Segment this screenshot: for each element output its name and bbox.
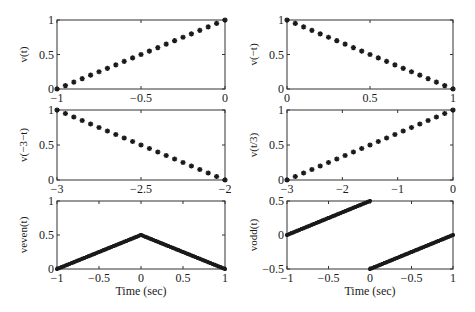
data-point-marker	[409, 69, 414, 74]
y-tick-label: 0	[278, 82, 284, 96]
subplot-v-t: −1−0.5000.51v(t)	[17, 13, 228, 105]
data-point-marker	[96, 125, 101, 130]
data-point-marker	[284, 177, 289, 182]
data-point-marker	[180, 160, 185, 165]
y-tick-label: 0	[48, 82, 54, 96]
y-tick-label: 1	[48, 194, 54, 208]
data-point-marker	[442, 111, 447, 116]
data-point-marker	[80, 118, 85, 123]
x-tick-label: 1	[450, 271, 456, 285]
data-point-marker	[214, 174, 219, 179]
y-axis-label: v(t/3)	[247, 132, 260, 157]
y-tick-label: 0	[48, 262, 54, 276]
x-tick-label: 0.5	[363, 91, 378, 105]
subplot-v-t-over-3: −3−2−1000.51v(t/3)	[247, 103, 456, 196]
data-point-marker	[442, 83, 447, 88]
data-point-marker	[222, 17, 227, 22]
data-point-marker	[130, 55, 135, 60]
data-point-marker	[80, 76, 85, 81]
y-axis-label: v(t)	[17, 46, 30, 62]
data-point-marker	[451, 233, 455, 237]
data-point-marker	[172, 156, 177, 161]
data-point-marker	[138, 52, 143, 57]
data-point-marker	[392, 132, 397, 137]
data-point-marker	[172, 38, 177, 43]
x-tick-label: −0.5	[88, 271, 110, 285]
data-point-marker	[301, 24, 306, 29]
data-point-marker	[351, 149, 356, 154]
x-tick-label: −1	[391, 182, 404, 196]
data-point-marker	[359, 48, 364, 53]
y-tick-label: 0.5	[39, 228, 54, 242]
data-point-marker	[334, 38, 339, 43]
figure: −1−0.5000.51v(t) 00.5100.51v(−t) −3−2.5−…	[0, 0, 475, 312]
data-point-marker	[450, 86, 455, 91]
y-tick-label: 0.5	[269, 48, 284, 62]
y-tick-label: 1	[278, 103, 284, 117]
data-point-marker	[197, 28, 202, 33]
data-point-marker	[63, 111, 68, 116]
data-point-marker	[326, 35, 331, 40]
data-point-marker	[417, 73, 422, 78]
data-point-marker	[147, 48, 152, 53]
data-point-marker	[71, 114, 76, 119]
data-point-marker	[113, 132, 118, 137]
data-point-marker	[54, 86, 59, 91]
data-point-marker	[155, 149, 160, 154]
x-tick-label: 0.5	[176, 271, 191, 285]
data-point-marker	[368, 199, 372, 203]
data-point-marker	[113, 62, 118, 67]
data-point-marker	[223, 267, 227, 271]
data-point-marker	[450, 107, 455, 112]
data-point-marker	[147, 146, 152, 151]
subplot-vodd: −1−0.50−0.51−0.500.5vodd(t)Time (sec)	[247, 194, 456, 298]
y-tick-label: 0	[48, 173, 54, 187]
data-point-marker	[384, 59, 389, 64]
data-point-marker	[88, 73, 93, 78]
data-point-marker	[343, 153, 348, 158]
data-point-marker	[138, 142, 143, 147]
data-point-marker	[326, 160, 331, 165]
data-point-marker	[189, 31, 194, 36]
x-tick-label: −0.5	[401, 271, 423, 285]
x-tick-label: −0.5	[130, 91, 152, 105]
data-point-marker	[189, 163, 194, 168]
data-point-marker	[334, 156, 339, 161]
x-tick-label: 0	[222, 91, 228, 105]
data-point-marker	[384, 135, 389, 140]
data-point-marker	[401, 66, 406, 71]
x-tick-label: 0	[450, 182, 456, 196]
y-tick-label: 0.5	[269, 194, 284, 208]
data-point-marker	[367, 142, 372, 147]
data-point-marker	[426, 118, 431, 123]
data-point-marker	[301, 170, 306, 175]
data-point-marker	[293, 174, 298, 179]
axes-frame	[287, 201, 453, 269]
data-point-marker	[376, 139, 381, 144]
y-axis-label: v(−3−t)	[17, 128, 30, 162]
y-tick-label: 0	[278, 228, 284, 242]
y-tick-label: 0.5	[39, 138, 54, 152]
data-point-marker	[309, 28, 314, 33]
data-point-marker	[367, 52, 372, 57]
data-point-marker	[71, 80, 76, 85]
x-tick-label: −2.5	[130, 182, 152, 196]
data-point-marker	[164, 153, 169, 158]
subplot-v-neg-t: 00.5100.51v(−t)	[247, 13, 456, 105]
subplot-veven: −1−0.500.5100.51veven(t)Time (sec)	[17, 194, 228, 298]
y-tick-label: 1	[48, 13, 54, 27]
data-point-marker	[359, 146, 364, 151]
data-point-marker	[309, 167, 314, 172]
y-axis-label: v(−t)	[247, 43, 260, 65]
data-point-marker	[206, 24, 211, 29]
x-tick-label: −2	[219, 182, 232, 196]
data-point-marker	[434, 80, 439, 85]
x-axis-label: Time (sec)	[344, 284, 395, 298]
x-tick-label: −0.5	[318, 271, 340, 285]
data-point-marker	[214, 21, 219, 26]
y-tick-label: −0.5	[262, 262, 284, 276]
data-point-marker	[206, 170, 211, 175]
y-axis-label: vodd(t)	[247, 218, 260, 251]
data-point-marker	[376, 55, 381, 60]
data-point-marker	[105, 66, 110, 71]
